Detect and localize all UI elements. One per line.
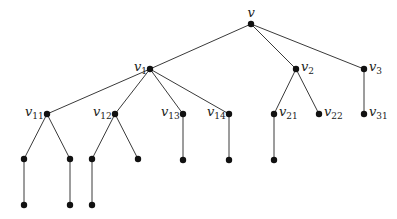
node-a2 [67,156,73,162]
edge-v-v1 [150,24,251,69]
node-v14 [226,111,232,117]
tree-diagram: vv1v2v3v11v12v13v14v21v22v31 [0,0,397,219]
node-a7 [271,157,277,163]
node-label-v11: v11 [25,105,44,121]
node-label-v12: v12 [93,105,112,121]
node-v12 [112,111,118,117]
node-b2 [67,202,73,208]
node-v [248,21,254,27]
node-a1 [21,156,27,162]
node-a6 [226,157,232,163]
node-v2 [293,66,299,72]
node-a5 [180,157,186,163]
edge-v11-a2 [47,114,70,159]
node-b3 [89,202,95,208]
node-label-v2: v2 [301,60,314,76]
node-a3 [89,156,95,162]
edge-v-v2 [251,24,296,69]
node-v13 [180,111,186,117]
node-label-v21: v21 [279,105,298,121]
node-label-v31: v31 [369,105,388,121]
node-v22 [316,111,322,117]
edge-v12-a4 [115,114,138,159]
node-v31 [361,111,367,117]
edges-group [24,24,364,205]
node-label-v3: v3 [369,60,382,76]
node-label-v14: v14 [207,105,226,121]
node-label-v22: v22 [324,105,343,121]
node-label-v: v [248,6,255,19]
node-a4 [135,156,141,162]
node-v21 [271,111,277,117]
node-v3 [361,66,367,72]
node-v11 [44,111,50,117]
node-label-v13: v13 [161,105,180,121]
node-v1 [147,66,153,72]
node-label-v1: v1 [134,60,147,76]
node-b1 [21,202,27,208]
